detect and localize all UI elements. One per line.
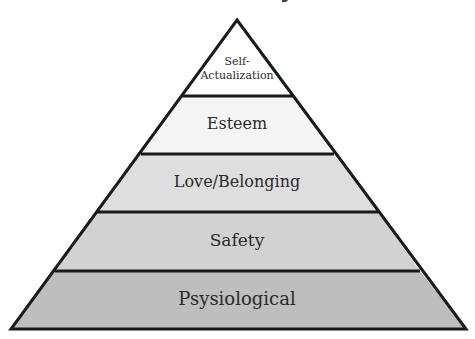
label-esteem: Esteem: [207, 114, 267, 133]
label-love-belonging: Love/Belonging: [174, 172, 300, 191]
label-safety: Safety: [210, 230, 265, 250]
label-self-actualization: Self- Actualization: [200, 55, 273, 83]
label-physiological: Psysiological: [178, 288, 295, 309]
label-line-2: Actualization: [200, 69, 273, 83]
label-line-1: Self-: [200, 55, 273, 69]
